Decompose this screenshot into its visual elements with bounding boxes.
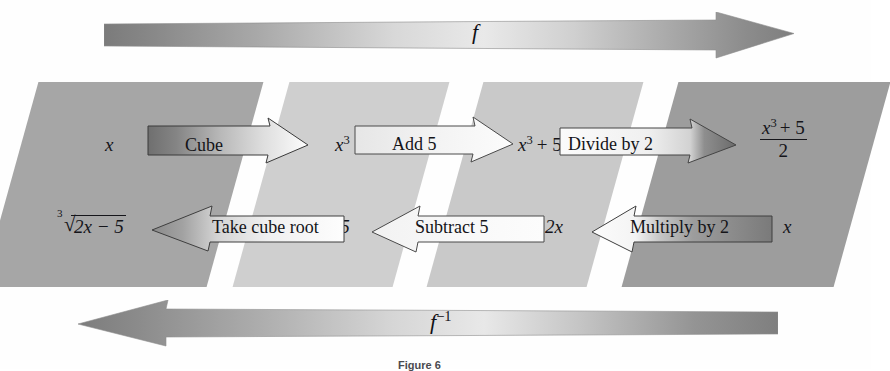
stage-3-top-exponent: 3 (526, 133, 532, 147)
radical-index: 3 (57, 208, 63, 219)
op-divide-by-2-arrow (560, 128, 736, 173)
stage-3-top-value: x3+ 5 (518, 134, 562, 154)
stage-4-numerator-exponent: 3 (770, 116, 776, 130)
stage-2-top-exponent: 3 (343, 133, 349, 147)
op-take-cube-root-arrow (152, 208, 344, 254)
stage-3-parallelogram (427, 82, 644, 287)
stage-2-parallelogram (233, 82, 450, 287)
stage-4-numerator-rest: + 5 (777, 117, 805, 138)
stage-1-top-base: x (105, 134, 113, 155)
cube-root-radical: 3 √ 2x − 5 (56, 215, 126, 236)
stage-1-bottom-value: 3 √ 2x − 5 (56, 215, 126, 236)
figure-caption: Figure 6 (398, 360, 441, 371)
radical-symbol-icon: √ (64, 214, 76, 235)
stage-4-fraction-denominator: 2 (760, 140, 807, 161)
stage-1-top-value: x (105, 135, 113, 154)
stage-3-bottom-value: 2x (545, 217, 563, 236)
stage-4-fraction-numerator: x3+ 5 (760, 117, 807, 140)
stage-3-top-rest: + 5 (533, 134, 562, 155)
stage-1-parallelogram (0, 82, 263, 287)
op-multiply-by-2-arrow (592, 210, 772, 256)
stage-4-top-value: x3+ 5 2 (760, 117, 807, 161)
stage-4-fraction: x3+ 5 2 (760, 117, 807, 161)
stage-2-top-value: x3 (335, 134, 350, 154)
forward-function-arrow (104, 12, 794, 60)
op-add-5-arrow (355, 126, 513, 171)
radicand: 2x − 5 (71, 215, 126, 236)
inverse-function-exponent: −1 (436, 308, 451, 324)
forward-function-label: f (472, 21, 478, 43)
op-cube-arrow (148, 126, 308, 171)
stage-4-parallelogram (622, 82, 890, 287)
inverse-function-arrow (78, 300, 778, 348)
stage-4-bottom-value: x (783, 217, 791, 236)
inverse-function-label: f−1 (430, 309, 452, 333)
op-subtract-5-arrow (372, 210, 544, 256)
